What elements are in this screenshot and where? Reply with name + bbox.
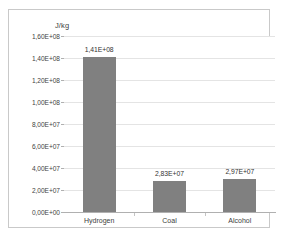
x-axis-category-label: Hydrogen [84, 217, 114, 224]
chart-frame: J/kg 0,00E+002,00E+074,00E+076,00E+078,0… [8, 9, 270, 228]
x-axis-category-label: Coal [162, 217, 176, 224]
x-axis-line [64, 212, 276, 213]
y-axis-tick-mark [61, 58, 64, 59]
y-axis-title: J/kg [55, 21, 69, 30]
bar[interactable] [223, 179, 256, 212]
gridline [64, 36, 275, 37]
y-axis-tick-mark [61, 190, 64, 191]
y-axis-tick-label: 6,00E+07 [12, 143, 60, 150]
x-axis-tick-mark [205, 213, 206, 216]
x-axis-category-label: Alcohol [228, 217, 251, 224]
y-axis-tick-label: 2,00E+07 [12, 187, 60, 194]
bar-data-label: 1,41E+08 [85, 46, 114, 53]
y-axis-tick-mark [61, 168, 64, 169]
bar-data-label: 2,83E+07 [155, 170, 184, 177]
y-axis-tick-mark [61, 80, 64, 81]
bar[interactable] [153, 181, 186, 212]
x-axis-tick-mark [134, 213, 135, 216]
y-axis-tick-label: 4,00E+07 [12, 165, 60, 172]
plot-area: 1,41E+082,83E+072,97E+07 [64, 36, 275, 212]
y-axis-tick-label: 1,20E+08 [12, 77, 60, 84]
bar-data-label: 2,97E+07 [225, 168, 254, 175]
y-axis-tick-labels: 0,00E+002,00E+074,00E+076,00E+078,00E+07… [9, 36, 60, 212]
y-axis-tick-label: 8,00E+07 [12, 121, 60, 128]
y-axis-tick-mark [61, 36, 64, 37]
y-axis-tick-mark [61, 124, 64, 125]
y-axis-tick-mark [61, 212, 64, 213]
y-axis-tick-label: 1,00E+08 [12, 99, 60, 106]
y-axis-tick-label: 1,60E+08 [12, 33, 60, 40]
y-axis-tick-label: 0,00E+00 [12, 209, 60, 216]
y-axis-tick-label: 1,40E+08 [12, 55, 60, 62]
bar[interactable] [83, 57, 116, 212]
y-axis-tick-mark [61, 146, 64, 147]
y-axis-tick-mark [61, 102, 64, 103]
